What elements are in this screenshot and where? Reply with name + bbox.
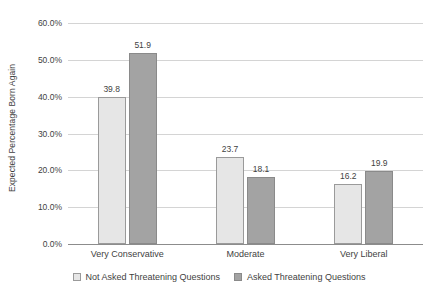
chart-legend: Not Asked Threatening QuestionsAsked Thr… bbox=[0, 272, 438, 282]
y-axis-tick-label: 40.0% bbox=[38, 92, 62, 102]
y-axis-tick-label: 60.0% bbox=[38, 18, 62, 28]
y-axis-tick-label: 20.0% bbox=[38, 165, 62, 175]
y-axis-tick-label: 30.0% bbox=[38, 129, 62, 139]
x-axis-tick-labels: Very ConservativeModerateVery Liberal bbox=[68, 249, 423, 265]
y-axis-tick-labels: 60.0%50.0%40.0%30.0%20.0%10.0%0.0% bbox=[20, 0, 66, 255]
bar[interactable] bbox=[247, 177, 275, 244]
legend-label: Not Asked Threatening Questions bbox=[86, 272, 220, 282]
y-axis-tick-label: 50.0% bbox=[38, 55, 62, 65]
bar[interactable] bbox=[365, 171, 393, 244]
x-axis-line bbox=[68, 244, 423, 245]
y-axis-title-text: Expected Percentage Born Again bbox=[7, 63, 17, 191]
bar-value-label: 23.7 bbox=[222, 144, 239, 154]
bar-value-label: 18.1 bbox=[253, 164, 270, 174]
x-axis-tick-label: Moderate bbox=[226, 249, 264, 259]
legend-swatch-icon bbox=[234, 273, 242, 281]
bar-value-label: 19.9 bbox=[371, 158, 388, 168]
legend-item[interactable]: Not Asked Threatening Questions bbox=[73, 272, 220, 282]
bar-group: 16.219.9 bbox=[334, 23, 393, 244]
x-axis-tick-label: Very Conservative bbox=[91, 249, 164, 259]
x-axis-tick-label: Very Liberal bbox=[340, 249, 388, 259]
bar[interactable] bbox=[216, 157, 244, 244]
bar-group: 39.851.9 bbox=[98, 23, 157, 244]
legend-swatch-icon bbox=[73, 273, 81, 281]
bar-value-label: 16.2 bbox=[340, 171, 357, 181]
bar-value-label: 39.8 bbox=[103, 84, 120, 94]
bar[interactable] bbox=[334, 184, 362, 244]
bar[interactable] bbox=[98, 97, 126, 244]
bar-group: 23.718.1 bbox=[216, 23, 275, 244]
bar-value-label: 51.9 bbox=[134, 40, 151, 50]
legend-label: Asked Threatening Questions bbox=[247, 272, 365, 282]
y-axis-tick-label: 0.0% bbox=[43, 239, 62, 249]
bar[interactable] bbox=[129, 53, 157, 244]
bar-chart: Expected Percentage Born Again 60.0%50.0… bbox=[0, 0, 438, 297]
y-axis-tick-label: 10.0% bbox=[38, 202, 62, 212]
legend-item[interactable]: Asked Threatening Questions bbox=[234, 272, 365, 282]
plot-area: 39.851.923.718.116.219.9 bbox=[68, 23, 423, 245]
